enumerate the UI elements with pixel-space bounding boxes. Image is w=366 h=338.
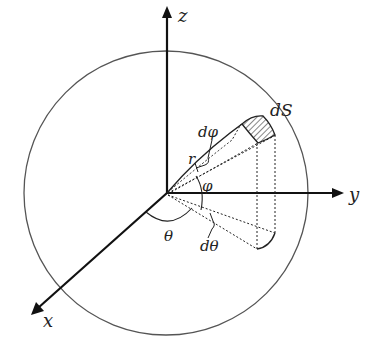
y-axis [167,188,344,198]
spherical-coordinates-diagram: z y x dS dφ r φ [0,0,366,338]
z-axis-label: z [177,5,188,26]
z-axis [162,6,172,193]
y-axis-label: y [348,184,360,205]
d-theta-marker [208,213,214,238]
dS-label: dS [270,100,293,120]
radius-label: r [188,150,196,168]
x-axis [31,193,167,315]
theta-arc [146,208,192,221]
d-theta-label: dθ [200,237,219,255]
theta-label: θ [164,227,173,245]
phi-label: φ [202,177,213,195]
d-phi-label: dφ [198,123,219,141]
x-axis-label: x [43,310,53,331]
